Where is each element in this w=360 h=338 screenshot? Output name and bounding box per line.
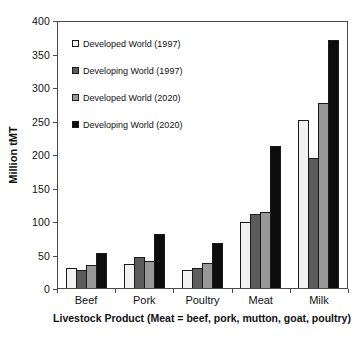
- y-tick-label: 100: [32, 216, 50, 228]
- x-axis-labels: BeefPorkPoultryMeatMilk: [57, 294, 348, 306]
- legend-swatch-icon: [72, 121, 79, 128]
- legend-label: Developed World (1997): [83, 39, 180, 49]
- x-tick-mark: [290, 289, 291, 293]
- y-axis: 400350300250200150100500: [0, 21, 52, 289]
- x-tick-label: Poultry: [173, 294, 231, 306]
- bar-group-milk: [289, 22, 347, 288]
- legend-swatch-icon: [72, 94, 79, 101]
- x-tick-label: Milk: [290, 294, 348, 306]
- y-tick-label: 200: [32, 149, 50, 161]
- bar: [328, 40, 339, 288]
- legend-label: Developed World (2020): [83, 93, 180, 103]
- y-tick-label: 250: [32, 116, 50, 128]
- bar-chart-figure: Million tMT 400350300250200150100500 Dev…: [0, 0, 360, 338]
- legend-entry: Developed World (1997): [72, 30, 182, 57]
- bar-group-meat: [231, 22, 289, 288]
- x-tick-mark: [173, 289, 174, 293]
- legend-swatch-icon: [72, 67, 79, 74]
- x-axis-title: Livestock Product (Meat = beef, pork, mu…: [53, 312, 351, 324]
- y-tick-label: 150: [32, 183, 50, 195]
- x-tick-mark: [348, 289, 349, 293]
- y-tick-label: 0: [44, 283, 50, 295]
- x-tick-label: Pork: [115, 294, 173, 306]
- y-tick-label: 50: [38, 250, 50, 262]
- bar: [270, 146, 281, 288]
- y-tick-label: 350: [32, 49, 50, 61]
- bar: [154, 234, 165, 288]
- x-tick-label: Beef: [57, 294, 115, 306]
- x-tick-mark: [232, 289, 233, 293]
- y-tick-label: 300: [32, 82, 50, 94]
- x-tick-mark: [57, 289, 58, 293]
- legend-entry: Developing World (2020): [72, 111, 182, 138]
- legend-entry: Developed World (2020): [72, 84, 182, 111]
- legend-label: Developing World (1997): [83, 66, 182, 76]
- plot-area: Developed World (1997)Developing World (…: [57, 21, 348, 289]
- legend-label: Developing World (2020): [83, 120, 182, 130]
- x-tick-mark: [115, 289, 116, 293]
- bar: [96, 253, 107, 288]
- bar: [212, 243, 223, 288]
- y-tick-label: 400: [32, 15, 50, 27]
- legend-entry: Developing World (1997): [72, 57, 182, 84]
- x-tick-label: Meat: [232, 294, 290, 306]
- legend: Developed World (1997)Developing World (…: [72, 30, 182, 138]
- legend-swatch-icon: [72, 40, 79, 47]
